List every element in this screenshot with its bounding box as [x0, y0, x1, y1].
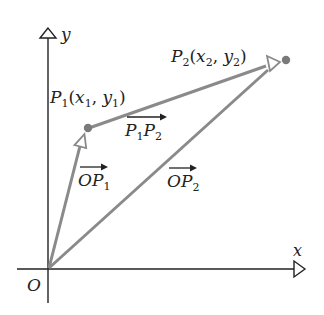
x-axis-label: x [293, 241, 302, 260]
vector-diagram: y x O P1(x1, y1) P2(x2, y2) P1P2 OP1 OP2 [0, 0, 324, 315]
y-axis-label: y [60, 24, 71, 44]
point-p2-label: P2(x2, y2) [170, 46, 247, 69]
y-axis-arrow-icon [40, 28, 56, 38]
vector-p2-arrowhead-icon [267, 56, 280, 71]
point-p2 [282, 56, 290, 64]
vector-op1 [49, 146, 80, 268]
vector-arrow-overline-icon [160, 114, 167, 121]
point-p1 [84, 124, 92, 132]
vector-p1p2-label: P1P2 [124, 114, 167, 144]
svg-text:P1P2: P1P2 [124, 120, 162, 143]
vector-op1-arrowhead-icon [75, 132, 90, 148]
point-p1-label: P1(x1, y1) [49, 87, 126, 110]
vector-op2-label: OP2 [167, 165, 199, 195]
vector-op1-label: OP1 [78, 164, 110, 194]
origin-label: O [27, 275, 41, 295]
svg-text:OP2: OP2 [167, 171, 199, 194]
svg-text:OP1: OP1 [78, 170, 110, 193]
x-axis-arrow-icon [294, 261, 305, 277]
